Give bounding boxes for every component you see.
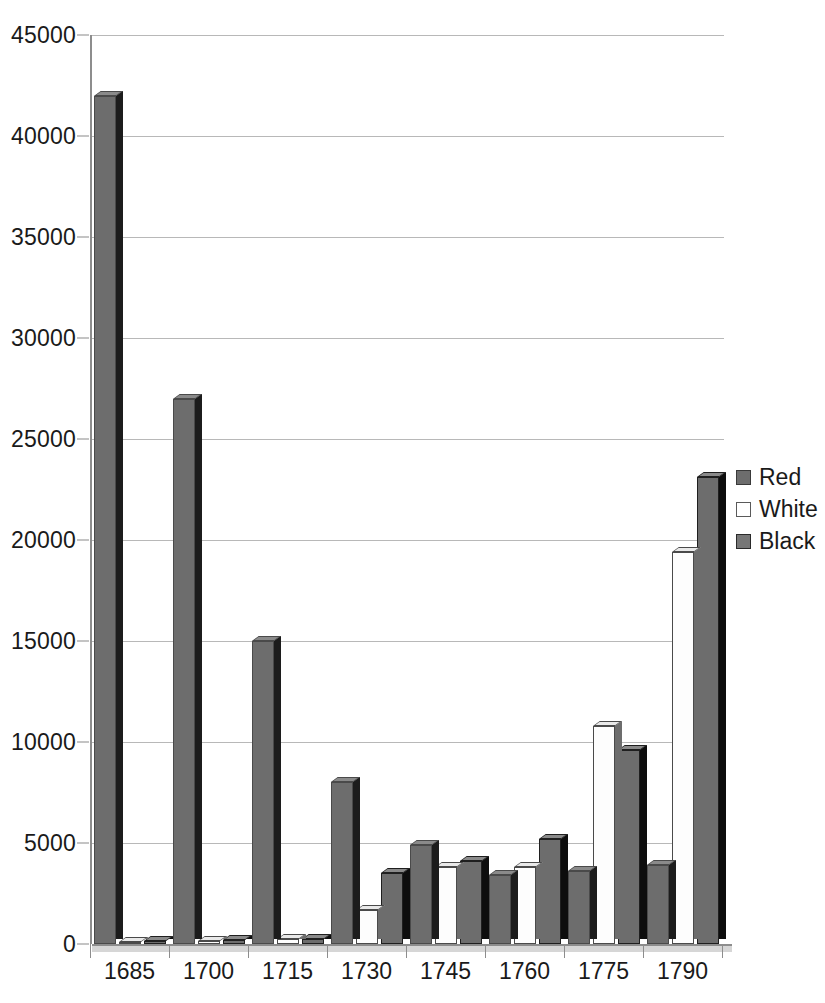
y-axis-tick-mark — [77, 843, 89, 844]
x-axis-tick-label: 1685 — [104, 958, 155, 985]
y-axis-tick-label: 15000 — [11, 628, 76, 655]
bar-white — [119, 942, 141, 944]
bar-group — [329, 35, 408, 944]
legend-swatch-icon — [736, 534, 751, 549]
legend-item-white[interactable]: White — [736, 494, 822, 524]
y-axis-tick-label: 40000 — [11, 123, 76, 150]
y-axis-tick-label: 5000 — [24, 830, 76, 857]
bar-side — [274, 636, 281, 939]
bar-white — [277, 939, 299, 944]
x-axis-tick-mark — [169, 944, 170, 958]
y-axis-tick-label: 0 — [63, 931, 76, 958]
y-axis-tick-label: 45000 — [11, 22, 76, 49]
y-axis-labels: 0500010000150002000025000300003500040000… — [0, 0, 90, 1003]
bar-face — [489, 875, 511, 944]
bar-face — [568, 871, 590, 944]
bar-side — [195, 394, 202, 939]
bar-side — [590, 866, 597, 939]
bar-black — [223, 940, 245, 944]
chart-legend: RedWhiteBlack — [736, 462, 822, 558]
legend-swatch-icon — [736, 470, 751, 485]
bar-group — [408, 35, 487, 944]
bar-group — [92, 35, 171, 944]
y-axis-tick-mark — [77, 439, 89, 440]
bar-side — [353, 777, 360, 939]
legend-item-red[interactable]: Red — [736, 462, 822, 492]
x-axis-tick-mark — [564, 944, 565, 958]
bar-side — [561, 834, 568, 939]
bar-face — [302, 939, 324, 944]
bar-black — [144, 941, 166, 944]
bar-group — [487, 35, 566, 944]
plot-area — [90, 35, 724, 944]
x-axis-tick-label: 1700 — [183, 958, 234, 985]
bar-face — [277, 939, 299, 944]
bar-red — [489, 875, 511, 944]
x-axis-tick-label: 1775 — [578, 958, 629, 985]
bar-red — [410, 845, 432, 944]
x-axis-tick-mark — [485, 944, 486, 958]
bar-side — [432, 840, 439, 939]
bar-black — [302, 939, 324, 944]
bar-side — [403, 868, 410, 939]
legend-label: Red — [759, 464, 801, 491]
bar-side — [719, 472, 726, 939]
bar-side — [694, 547, 701, 939]
x-axis-tick-mark — [90, 944, 91, 958]
bar-red — [568, 871, 590, 944]
y-axis-tick-mark — [77, 944, 89, 945]
bar-face — [252, 641, 274, 944]
y-axis-tick-label: 10000 — [11, 729, 76, 756]
y-axis-tick-mark — [77, 136, 89, 137]
bar-red — [94, 96, 116, 944]
bar-chart: 0500010000150002000025000300003500040000… — [0, 0, 825, 1003]
y-axis-tick-mark — [77, 35, 89, 36]
bar-face — [410, 845, 432, 944]
bar-face — [94, 96, 116, 944]
bar-group — [566, 35, 645, 944]
bar-group — [250, 35, 329, 944]
bar-face — [119, 942, 141, 944]
x-axis-labels: 16851700171517301745176017751790 — [90, 958, 730, 998]
x-axis-tick-mark — [248, 944, 249, 958]
bar-side — [669, 860, 676, 939]
bar-face — [223, 940, 245, 944]
x-axis-tick-mark — [327, 944, 328, 958]
x-axis-tick-mark — [643, 944, 644, 958]
y-axis-tick-label: 35000 — [11, 224, 76, 251]
bar-side — [511, 870, 518, 939]
legend-item-black[interactable]: Black — [736, 526, 822, 556]
y-axis-tick-mark — [77, 338, 89, 339]
bar-side — [482, 856, 489, 939]
bar-white — [198, 941, 220, 944]
bar-face — [144, 941, 166, 944]
bar-side — [640, 745, 647, 939]
x-axis-tick-label: 1745 — [420, 958, 471, 985]
legend-label: White — [759, 496, 818, 523]
bar-face — [173, 399, 195, 944]
y-axis-tick-mark — [77, 237, 89, 238]
y-axis-tick-mark — [77, 742, 89, 743]
bar-side — [457, 862, 464, 939]
x-axis-tick-mark — [722, 944, 723, 958]
bar-side — [536, 862, 543, 939]
y-axis-tick-mark — [77, 641, 89, 642]
bar-face — [647, 865, 669, 944]
x-axis-tick-label: 1760 — [499, 958, 550, 985]
x-axis-tick-mark — [406, 944, 407, 958]
x-axis-tick-label: 1790 — [657, 958, 708, 985]
x-axis-tick-label: 1715 — [262, 958, 313, 985]
bar-side — [378, 905, 385, 939]
bar-red — [173, 399, 195, 944]
bar-side — [615, 721, 622, 939]
bar-group — [171, 35, 250, 944]
bar-group — [645, 35, 724, 944]
bar-red — [331, 782, 353, 944]
bar-red — [252, 641, 274, 944]
legend-label: Black — [759, 528, 815, 555]
y-axis-tick-label: 20000 — [11, 527, 76, 554]
bar-face — [331, 782, 353, 944]
legend-swatch-icon — [736, 502, 751, 517]
y-axis-tick-label: 25000 — [11, 426, 76, 453]
bar-red — [647, 865, 669, 944]
